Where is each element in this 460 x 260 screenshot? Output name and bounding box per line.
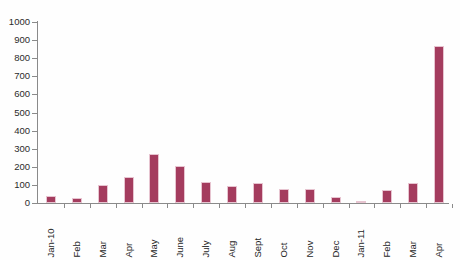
bar	[201, 182, 211, 203]
bar	[408, 183, 418, 203]
x-axis-label: Dec	[330, 209, 342, 257]
x-axis-label: Aug	[226, 209, 238, 257]
y-axis-label: 200	[0, 162, 30, 172]
y-axis-label-text: 1000	[0, 17, 30, 27]
x-axis-label: Feb	[381, 209, 393, 257]
bar	[227, 186, 237, 203]
x-axis-tick	[426, 204, 427, 208]
y-axis-label-text: 800	[0, 53, 30, 63]
bar	[175, 166, 185, 203]
x-axis-label-text: Aug	[227, 240, 237, 257]
x-axis-label: Nov	[304, 209, 316, 257]
x-axis-tick	[219, 204, 220, 208]
y-axis-label: 800	[0, 53, 30, 63]
chart-title	[18, 0, 438, 4]
y-axis-label-text: 600	[0, 89, 30, 99]
x-axis-label: Sept	[252, 209, 264, 257]
y-axis-label: 300	[0, 144, 30, 154]
x-axis-label: May	[148, 209, 160, 257]
x-axis-label-text: Nov	[305, 240, 315, 257]
bar	[72, 198, 82, 203]
x-axis-tick	[64, 204, 65, 208]
x-axis-label-text: Dec	[331, 240, 341, 257]
x-axis-tick	[452, 204, 453, 208]
x-axis-label: Feb	[71, 209, 83, 257]
x-axis-label-text: Apr	[124, 242, 134, 257]
y-axis-label-text: 700	[0, 71, 30, 81]
x-axis-tick	[349, 204, 350, 208]
y-axis-tick	[32, 149, 38, 150]
y-axis-tick	[32, 167, 38, 168]
x-axis-label-text: Feb	[383, 241, 393, 257]
x-axis-label-text: July	[201, 240, 211, 257]
bar	[124, 177, 134, 203]
x-axis-label-text: Apr	[434, 242, 444, 257]
x-axis-label: Oct	[278, 209, 290, 257]
x-axis-label: Mar	[97, 209, 109, 257]
x-axis-label-text: Sept	[253, 237, 263, 257]
x-axis-label: July	[200, 209, 212, 257]
x-axis-tick	[297, 204, 298, 208]
x-axis-tick	[193, 204, 194, 208]
y-axis-label-text: 300	[0, 144, 30, 154]
y-axis-label: 400	[0, 126, 30, 136]
bar	[434, 46, 444, 203]
y-axis-tick	[32, 185, 38, 186]
x-axis-label: Jan-11	[355, 209, 367, 257]
x-axis-label: June	[174, 209, 186, 257]
bar	[46, 196, 56, 203]
y-axis-label: 600	[0, 89, 30, 99]
y-axis-tick	[32, 40, 38, 41]
bar	[356, 201, 366, 203]
x-axis-label-text: Mar	[98, 241, 108, 257]
x-axis-tick	[245, 204, 246, 208]
y-axis-label: 500	[0, 108, 30, 118]
x-axis-tick	[400, 204, 401, 208]
y-axis-label-text: 200	[0, 162, 30, 172]
x-axis-tick	[142, 204, 143, 208]
y-axis-label: 0	[0, 198, 30, 208]
x-axis-label: Apr	[433, 209, 445, 257]
bar	[331, 197, 341, 203]
x-axis-line	[37, 203, 449, 204]
x-axis-label-text: June	[176, 236, 186, 257]
x-axis-label-text: Mar	[408, 241, 418, 257]
y-axis-label-text: 0	[0, 198, 30, 208]
x-axis-label-text: Jan-11	[357, 229, 367, 257]
bar	[279, 189, 289, 203]
bar	[98, 185, 108, 203]
y-axis-label: 100	[0, 180, 30, 190]
bar	[305, 189, 315, 203]
x-axis-tick	[323, 204, 324, 208]
y-axis-tick	[32, 131, 38, 132]
x-axis-tick	[374, 204, 375, 208]
x-axis-label-text: May	[150, 239, 160, 257]
x-axis-label-text: Feb	[72, 241, 82, 257]
y-axis-label-text: 900	[0, 35, 30, 45]
x-axis-label-text: Oct	[279, 242, 289, 257]
x-axis-label: Apr	[123, 209, 135, 257]
x-axis-tick	[116, 204, 117, 208]
y-axis-tick	[32, 58, 38, 59]
x-axis-label-text: Jan-10	[46, 228, 56, 257]
bar-chart: 01002003004005006007008009001000 Jan-10F…	[0, 0, 460, 260]
y-axis-label: 700	[0, 71, 30, 81]
y-axis-label: 1000	[0, 17, 30, 27]
x-axis-label: Mar	[407, 209, 419, 257]
y-axis-label: 900	[0, 35, 30, 45]
x-axis-tick	[167, 204, 168, 208]
x-axis-tick	[271, 204, 272, 208]
y-axis-tick	[32, 76, 38, 77]
bar	[382, 190, 392, 203]
y-axis-tick	[32, 203, 38, 204]
y-axis-tick	[32, 113, 38, 114]
y-axis-label-text: 100	[0, 180, 30, 190]
bar	[149, 154, 159, 203]
bar	[253, 183, 263, 203]
x-axis-tick	[90, 204, 91, 208]
y-axis-tick	[32, 94, 38, 95]
y-axis-label-text: 400	[0, 126, 30, 136]
x-axis-label: Jan-10	[45, 209, 57, 257]
y-axis-label-text: 500	[0, 108, 30, 118]
y-axis-tick	[32, 22, 38, 23]
